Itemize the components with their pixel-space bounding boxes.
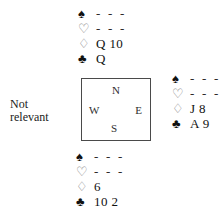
heart-icon: ♡ [172,86,186,101]
hand-north-spades-row: ♠ - - - [78,6,127,21]
diamond-icon: ♢ [172,101,186,116]
diamond-icon: ♢ [76,179,90,194]
hand-east-clubs-row: ♣ A 9 [172,116,221,131]
compass-label-west: W [89,104,99,115]
hand-east-spades-value: - - - [186,71,221,86]
hand-east-hearts-value: - - - [186,86,221,101]
hand-south-spades-row: ♠ - - - [76,149,125,164]
hand-east-diamonds-value: J 8 [186,101,206,116]
hand-north-clubs-value: Q [92,51,106,66]
hand-east: ♠ - - - ♡ - - - ♢ J 8 ♣ A 9 [172,71,221,131]
hand-north-diamonds-value: Q 10 [92,36,123,51]
club-icon: ♣ [172,116,186,131]
hand-north-hearts-value: - - - [92,21,127,36]
compass-label-south: S [111,123,117,134]
club-icon: ♣ [78,51,92,66]
heart-icon: ♡ [78,21,92,36]
hand-south-diamonds-row: ♢ 6 [76,179,125,194]
hand-east-spades-row: ♠ - - - [172,71,221,86]
hand-north-clubs-row: ♣ Q [78,51,127,66]
compass-label-east: E [135,104,142,115]
hand-west-note-line2: relevant [10,111,72,124]
hand-south-spades-value: - - - [90,149,125,164]
bridge-hand-diagram: ♠ - - - ♡ - - - ♢ Q 10 ♣ Q Not relevant … [0,0,222,220]
hand-south-hearts-value: - - - [90,164,125,179]
hand-north: ♠ - - - ♡ - - - ♢ Q 10 ♣ Q [78,6,127,66]
hand-north-diamonds-row: ♢ Q 10 [78,36,127,51]
spade-icon: ♠ [172,71,186,86]
hand-north-hearts-row: ♡ - - - [78,21,127,36]
hand-south: ♠ - - - ♡ - - - ♢ 6 ♣ 10 2 [76,149,125,209]
compass-label-north: N [112,85,120,96]
diamond-icon: ♢ [78,36,92,51]
hand-south-clubs-row: ♣ 10 2 [76,194,125,209]
hand-south-diamonds-value: 6 [90,179,101,194]
compass-box: N W E S [81,78,151,141]
hand-east-diamonds-row: ♢ J 8 [172,101,221,116]
spade-icon: ♠ [76,149,90,164]
hand-east-hearts-row: ♡ - - - [172,86,221,101]
hand-west-note-line1: Not [10,98,72,111]
hand-south-hearts-row: ♡ - - - [76,164,125,179]
heart-icon: ♡ [76,164,90,179]
hand-west-note: Not relevant [10,98,72,123]
hand-north-spades-value: - - - [92,6,127,21]
hand-east-clubs-value: A 9 [186,116,210,131]
hand-south-clubs-value: 10 2 [90,194,118,209]
club-icon: ♣ [76,194,90,209]
spade-icon: ♠ [78,6,92,21]
